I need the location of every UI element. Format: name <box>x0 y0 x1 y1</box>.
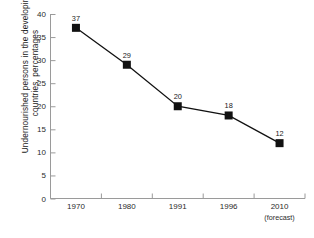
data-point-value-label: 12 <box>267 129 293 138</box>
data-point-value-label: 37 <box>63 14 89 23</box>
data-point-value-labels: 3729201812 <box>0 0 314 238</box>
data-point-value-label: 20 <box>165 92 191 101</box>
chart-container: Undernourished persons in the developing… <box>0 0 314 238</box>
data-point-value-label: 18 <box>216 101 242 110</box>
data-point-value-label: 29 <box>114 51 140 60</box>
